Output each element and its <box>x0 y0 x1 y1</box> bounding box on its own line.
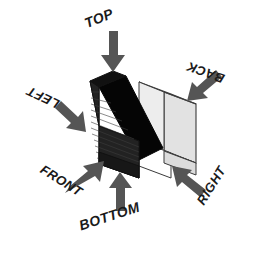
arrow-top <box>101 31 125 72</box>
arrow-left <box>55 101 86 132</box>
diagram-canvas: TOP BACK LEFT FRONT BOTTOM RIGHT <box>0 0 261 255</box>
isometric-diagram: TOP BACK LEFT FRONT BOTTOM RIGHT <box>0 0 261 255</box>
